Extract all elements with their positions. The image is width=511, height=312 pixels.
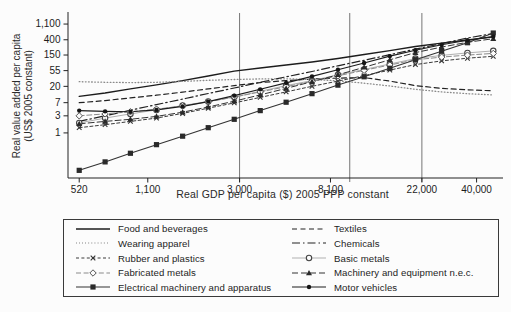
marker-square bbox=[284, 100, 289, 105]
legend-item-machinery-and-equipment-n-e-c-: Machinery and equipment n.e.c. bbox=[291, 265, 496, 280]
marker-dot bbox=[128, 110, 132, 114]
legend-label: Chemicals bbox=[334, 238, 380, 249]
y-axis-title-line2: (US$ 2005 constant) bbox=[22, 34, 34, 159]
marker-dot bbox=[362, 61, 366, 65]
legend-label: Electrical machinery and apparatus bbox=[118, 282, 271, 293]
legend-label: Textiles bbox=[334, 223, 367, 234]
marker-dot bbox=[336, 68, 340, 72]
legend-swatch-icon bbox=[75, 268, 111, 278]
marker-dot bbox=[154, 108, 158, 112]
legend-swatch-icon bbox=[291, 268, 327, 278]
marker-dot bbox=[284, 81, 288, 85]
marker-dot bbox=[413, 48, 417, 52]
marker-dot bbox=[206, 99, 210, 103]
legend-swatch-icon bbox=[291, 224, 327, 234]
marker-square bbox=[413, 57, 418, 62]
legend-swatch-icon bbox=[75, 224, 111, 234]
marker-dot bbox=[491, 34, 495, 38]
legend-label: Basic metals bbox=[334, 253, 390, 264]
y-tick-label: 1,100 bbox=[35, 18, 60, 29]
marker-square bbox=[439, 49, 444, 54]
marker-dot bbox=[103, 109, 107, 113]
marker-dot bbox=[77, 108, 81, 112]
y-axis-title: Real value added per capita (US$ 2005 co… bbox=[11, 34, 34, 159]
marker-dot bbox=[465, 38, 469, 42]
y-tick-label: 7 bbox=[55, 97, 61, 108]
legend-item-wearing-apparel: Wearing apparel bbox=[75, 236, 291, 251]
y-axis-title-line1: Real value added per capita bbox=[11, 34, 23, 159]
legend-label: Wearing apparel bbox=[118, 238, 190, 249]
legend-item-electrical-machinery-and-apparatus: Electrical machinery and apparatus bbox=[75, 280, 291, 295]
legend-label: Fabricated metals bbox=[118, 267, 196, 278]
legend-item-basic-metals: Basic metals bbox=[291, 251, 496, 266]
legend: Food and beveragesTextilesWearing appare… bbox=[63, 219, 499, 297]
legend-item-food-and-beverages: Food and beverages bbox=[75, 222, 291, 237]
legend-item-rubber-and-plastics: Rubber and plastics bbox=[75, 251, 291, 266]
legend-label: Machinery and equipment n.e.c. bbox=[334, 267, 474, 278]
legend-label: Rubber and plastics bbox=[118, 253, 205, 264]
marker-square bbox=[206, 125, 211, 130]
legend-swatch-icon bbox=[75, 282, 111, 292]
marker-dot bbox=[232, 93, 236, 97]
y-tick-label: 55 bbox=[49, 65, 61, 76]
marker-square bbox=[387, 66, 392, 71]
legend-label: Motor vehicles bbox=[334, 282, 397, 293]
marker-dot bbox=[439, 43, 443, 47]
legend-swatch-icon bbox=[75, 253, 111, 263]
y-tick-label: 1 bbox=[55, 127, 61, 138]
marker-square bbox=[309, 91, 314, 96]
marker-square bbox=[180, 134, 185, 139]
legend-item-motor-vehicles: Motor vehicles bbox=[291, 280, 496, 295]
marker-dot bbox=[388, 54, 392, 58]
marker-diamond-open bbox=[76, 113, 82, 119]
legend-label: Food and beverages bbox=[118, 223, 208, 234]
y-tick-label: 3 bbox=[55, 110, 61, 121]
y-tick-label: 20 bbox=[49, 81, 61, 92]
x-axis-title: Real GDP per capita ($) 2005 PPP constan… bbox=[68, 188, 497, 200]
legend-item-fabricated-metals: Fabricated metals bbox=[75, 265, 291, 280]
y-tick-label: 400 bbox=[44, 34, 61, 45]
marker-square bbox=[232, 117, 237, 122]
marker-dot bbox=[258, 87, 262, 91]
marker-dot bbox=[180, 104, 184, 108]
marker-square bbox=[258, 108, 263, 113]
marker-dot bbox=[310, 74, 314, 78]
marker-square bbox=[128, 151, 133, 156]
legend-item-textiles: Textiles bbox=[291, 222, 496, 237]
legend-swatch-icon bbox=[291, 282, 327, 292]
marker-square bbox=[154, 142, 159, 147]
legend-item-chemicals: Chemicals bbox=[291, 236, 496, 251]
legend-swatch-icon bbox=[75, 238, 111, 248]
legend-swatch-icon bbox=[291, 253, 327, 263]
marker-square bbox=[77, 168, 82, 173]
y-tick-label: 150 bbox=[44, 49, 61, 60]
line-chart-canvas: 13720551504001,1005201,1003,0008,10022,0… bbox=[0, 0, 511, 210]
legend-swatch-icon bbox=[291, 238, 327, 248]
marker-square bbox=[335, 83, 340, 88]
figure: 13720551504001,1005201,1003,0008,10022,0… bbox=[0, 0, 511, 312]
marker-square bbox=[362, 74, 367, 79]
marker-square bbox=[102, 159, 107, 164]
